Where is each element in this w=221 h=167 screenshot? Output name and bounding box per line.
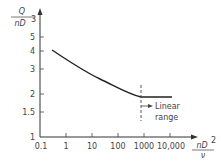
svg-text:5: 5 [30,33,35,42]
x-ticks [66,133,170,137]
y-tick-labels: 1 1.5 2 3 4 5 [22,33,35,142]
svg-text:10,000: 10,000 [157,142,185,151]
svg-text:1000: 1000 [134,142,154,151]
chart: Q nD 3 1 1.5 2 3 4 5 0.1 1 10 100 1000 1… [0,0,221,167]
svg-text:0.1: 0.1 [35,142,48,151]
x-axis-arrow-icon [191,135,198,140]
annotation-linear: Linear [155,102,181,111]
svg-text:2: 2 [30,90,35,99]
svg-text:nD: nD [14,19,25,28]
svg-text:Q: Q [19,7,25,16]
y-ticks [40,37,44,112]
svg-text:3: 3 [30,65,35,74]
y-axis-arrow-icon [38,8,43,15]
arrow-right-icon [148,104,153,108]
svg-text:1: 1 [30,133,35,142]
svg-text:4: 4 [30,47,35,56]
y-axis-label: Q nD 3 [11,7,36,28]
svg-text:2: 2 [211,136,216,145]
data-curve [52,50,172,97]
x-axis-label: nD 2 ν [192,136,216,160]
annotation-range: range [155,113,178,122]
svg-text:10: 10 [87,142,97,151]
svg-text:1: 1 [63,142,68,151]
svg-text:100: 100 [110,142,125,151]
svg-text:ν: ν [201,151,206,160]
x-tick-labels: 0.1 1 10 100 1000 10,000 [35,142,185,151]
svg-text:3: 3 [31,15,36,24]
svg-text:1.5: 1.5 [22,108,35,117]
svg-text:nD: nD [196,141,207,150]
